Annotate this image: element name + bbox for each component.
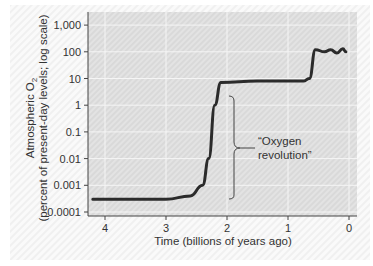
x-tick-label: 0	[346, 222, 352, 234]
oxygen-chart: 1,0001001010.10.010.0010.0001 43210 “Oxy…	[0, 0, 373, 266]
y-tick-label: 1	[75, 99, 81, 111]
y-tick-label: 0.0001	[47, 206, 81, 218]
y-tick-label: 100	[63, 46, 81, 58]
annotation-line1: “Oxygen	[258, 135, 301, 147]
x-tick-label: 3	[163, 222, 169, 234]
y-tick-label: 0.1	[66, 126, 81, 138]
x-tick-label: 4	[102, 222, 108, 234]
x-axis-label: Time (billions of years ago)	[154, 235, 292, 247]
y-axis-label-line2: (percent of present-day levels; log scal…	[37, 14, 49, 221]
y-tick-label: 1,000	[53, 19, 81, 31]
x-tick-label: 1	[285, 222, 291, 234]
x-tick-label: 2	[224, 222, 230, 234]
y-tick-label: 0.001	[53, 179, 81, 191]
annotation-line2: revolution”	[258, 149, 312, 161]
y-axis-label-line1: Atmospheric O	[24, 82, 36, 158]
y-tick-label: 10	[69, 73, 81, 85]
y-tick-label: 0.01	[60, 153, 81, 165]
